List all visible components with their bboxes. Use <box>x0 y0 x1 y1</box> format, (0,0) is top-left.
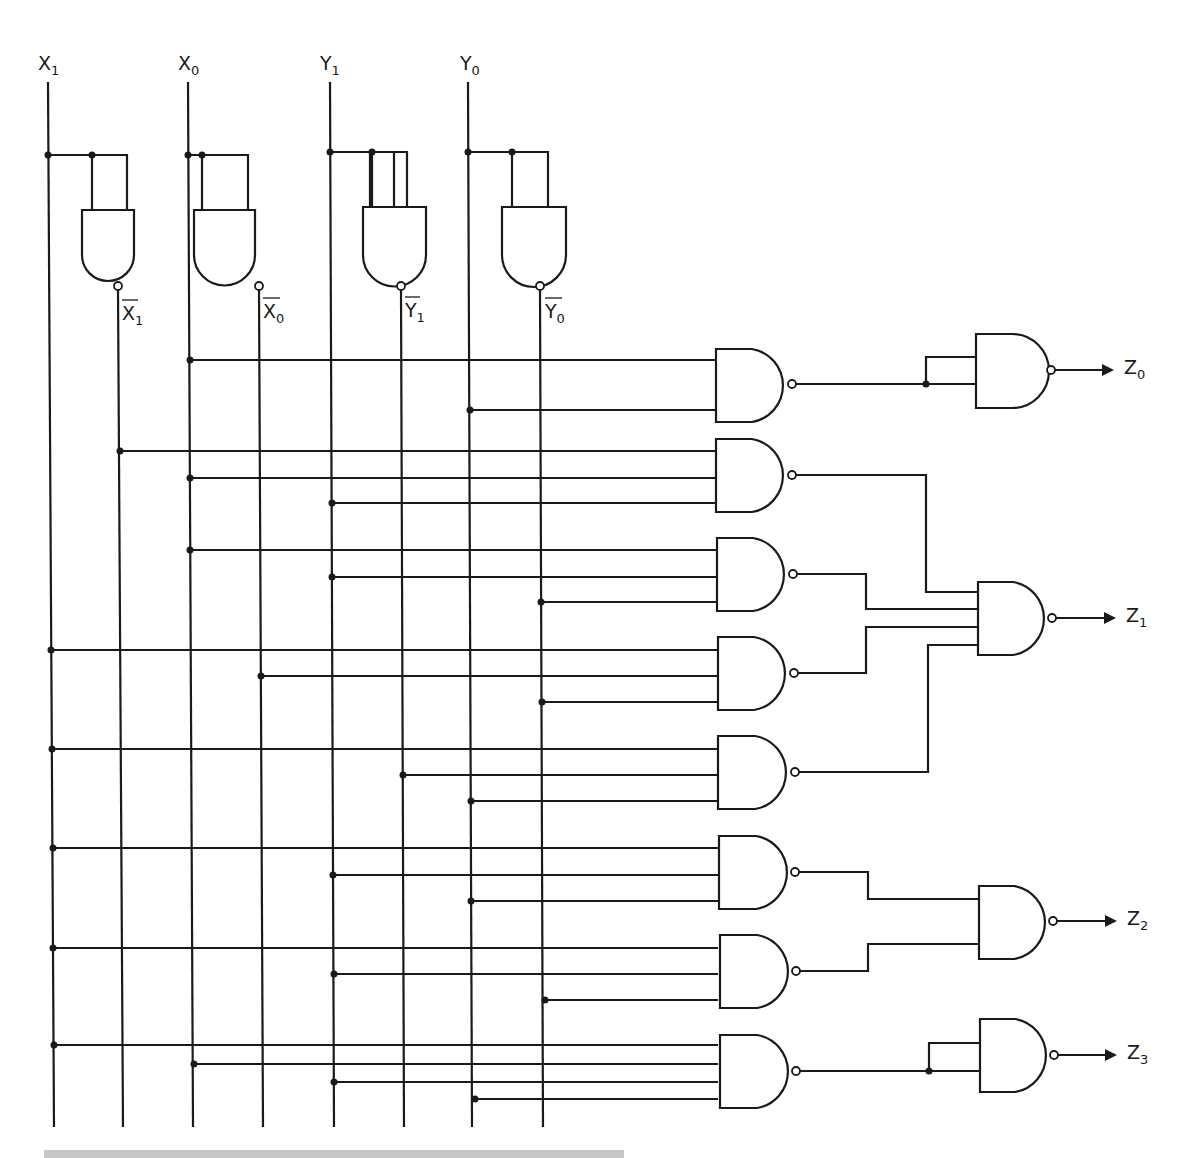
bus-x0-bar <box>259 290 263 1127</box>
label-y1: Y1 <box>319 52 340 78</box>
bus-x1 <box>48 82 54 1127</box>
output-gates <box>976 334 1058 1092</box>
nand-gate-g4 <box>718 637 798 710</box>
first-level-input-wires <box>48 357 719 1103</box>
nand-inverter-y0 <box>465 149 567 291</box>
inverter-gates <box>45 149 567 291</box>
nand-inverter-x1 <box>45 152 135 291</box>
svg-text:Z0: Z0 <box>1124 356 1145 382</box>
arrow-icon <box>1104 612 1116 624</box>
nand-gate-g5 <box>718 736 799 809</box>
nand-gate-g2 <box>716 439 796 512</box>
label-y1-bar: Y1 <box>404 297 425 325</box>
output-z2: Z2 <box>1057 907 1148 933</box>
input-labels: X1 X0 Y1 Y0 <box>38 52 480 78</box>
output-z1: Z1 <box>1056 604 1147 630</box>
second-level-wiring <box>796 357 980 1075</box>
nand-gate-g8 <box>720 1035 800 1108</box>
nand-gate-g1 <box>716 349 796 422</box>
logic-circuit-diagram: X1 X0 Y1 Y0 <box>0 0 1194 1158</box>
first-level-gates <box>716 349 800 1108</box>
nand-gate-z3 <box>980 1019 1058 1092</box>
svg-text:Z3: Z3 <box>1127 1041 1148 1067</box>
svg-text:Z2: Z2 <box>1127 907 1148 933</box>
nand-gate-z1 <box>978 582 1056 655</box>
nand-gate-g7 <box>720 935 800 1008</box>
nand-gate-z2 <box>979 886 1057 959</box>
nand-gate-z0 <box>976 334 1055 408</box>
nand-inverter-x0 <box>185 152 264 291</box>
label-y0-bar: Y0 <box>544 298 565 326</box>
arrow-icon <box>1105 915 1117 927</box>
label-x1-bar: X1 <box>122 300 143 328</box>
arrow-icon <box>1102 364 1114 376</box>
label-x1: X1 <box>38 52 59 78</box>
svg-text:Y1: Y1 <box>404 299 425 325</box>
bus-y0 <box>468 82 472 1127</box>
outputs: Z0 Z1 Z2 Z3 <box>1055 356 1148 1067</box>
bus-x0 <box>188 82 193 1127</box>
svg-text:Z1: Z1 <box>1126 604 1147 630</box>
bus-y1 <box>330 82 334 1127</box>
label-x0: X0 <box>178 52 199 78</box>
bus-y1-bar <box>401 290 404 1127</box>
nand-inverter-y1 <box>327 149 427 291</box>
nand-gate-g3 <box>717 538 797 611</box>
page-edge-bar <box>44 1150 624 1158</box>
output-z3: Z3 <box>1058 1041 1148 1067</box>
nand-gate-g6 <box>719 836 799 909</box>
svg-text:X1: X1 <box>122 302 143 328</box>
label-x0-bar: X0 <box>263 298 284 326</box>
output-z0: Z0 <box>1055 356 1145 382</box>
bus-x1-bar <box>118 290 123 1127</box>
label-y0: Y0 <box>459 52 480 78</box>
svg-text:Y0: Y0 <box>544 300 565 326</box>
arrow-icon <box>1105 1049 1117 1061</box>
svg-text:X0: X0 <box>263 300 284 326</box>
